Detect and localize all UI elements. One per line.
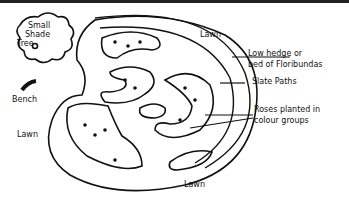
rose-bed-3: [155, 74, 213, 138]
roses-label-2: colour groups: [254, 116, 309, 125]
rose-bed-1: [102, 32, 160, 58]
tree-label-3: Tree: [17, 39, 34, 48]
lawn-label-top: Lawn: [200, 30, 221, 39]
rose-bed-2: [101, 67, 154, 103]
garden-plan-drawing: [0, 0, 349, 203]
bench-label: Bench: [12, 95, 37, 104]
lawn-label-bottom: Lawn: [184, 180, 205, 189]
hedge-label-2: bed of Floribundas: [248, 60, 322, 69]
tree-label-1: Small: [28, 21, 50, 30]
lawn-label-left: Lawn: [17, 130, 38, 139]
rose-bed-large: [67, 103, 142, 168]
hedge-label-1: Low hedge or: [248, 49, 302, 58]
rose-bed-small: [140, 104, 166, 118]
paths-label: Slate Paths: [252, 77, 297, 86]
tree-label-2: Shade: [25, 30, 50, 39]
roses-label-1: Roses planted in: [254, 105, 320, 114]
